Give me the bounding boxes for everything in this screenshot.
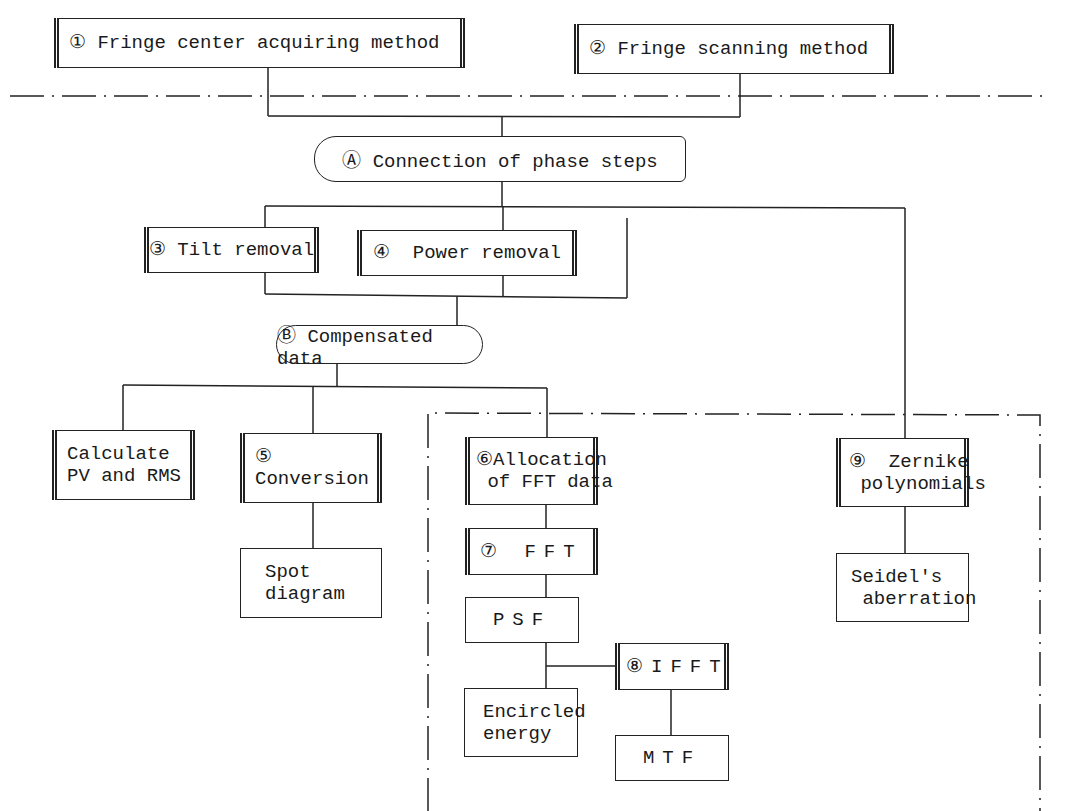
flowchart-canvas: ① Fringe center acquiring method ② Fring… <box>0 0 1075 811</box>
node-ifft[interactable]: ⑧IFFT <box>615 643 729 690</box>
node-label-line2: diagram <box>265 583 345 605</box>
node-label-line2: aberration <box>851 588 976 610</box>
node-psf[interactable]: PSF <box>465 597 579 643</box>
node-connection-of-phase-steps[interactable]: Ⓐ Connection of phase steps <box>314 136 686 182</box>
node-label-line2: Conversion <box>255 468 369 490</box>
node-label: Ⓑ Compensated data <box>277 320 482 370</box>
node-fft[interactable]: ⑦ FFT <box>465 528 598 575</box>
node-label-line1: ⑥Allocation <box>476 449 607 471</box>
node-label: ⑧IFFT <box>626 656 729 678</box>
node-label-line1: ⑤ <box>255 446 272 468</box>
node-label-line2: of FFT data <box>476 471 613 493</box>
node-label-line1: Encircled <box>483 701 586 723</box>
node-label-line1: ⑨ Zernike <box>849 451 969 473</box>
node-seidel-aberration[interactable]: Seidel's aberration <box>836 553 969 622</box>
node-conversion[interactable]: ⑤ Conversion <box>240 433 382 503</box>
node-label: ② Fringe scanning method <box>589 38 868 60</box>
node-label: ⑦ FFT <box>480 541 583 563</box>
node-label-line1: Calculate <box>67 443 170 465</box>
node-mtf[interactable]: MTF <box>615 735 729 781</box>
node-label-line2: polynomials <box>849 473 986 495</box>
node-fringe-scanning[interactable]: ② Fringe scanning method <box>574 24 894 74</box>
node-power-removal[interactable]: ④ Power removal <box>357 230 577 276</box>
node-label: PSF <box>493 609 551 631</box>
node-label-line1: Seidel's <box>851 566 942 588</box>
node-zernike-polynomials[interactable]: ⑨ Zernike polynomials <box>836 438 969 507</box>
node-label-line1: Spot <box>265 561 311 583</box>
node-label: ④ Power removal <box>373 242 561 264</box>
node-label-line2: energy <box>483 723 551 745</box>
node-label: MTF <box>643 747 701 769</box>
node-label: ③ Tilt removal <box>149 239 314 261</box>
node-label: ① Fringe center acquiring method <box>69 32 439 54</box>
node-calculate-pv-rms[interactable]: Calculate PV and RMS <box>52 430 195 500</box>
node-fringe-center-acquiring[interactable]: ① Fringe center acquiring method <box>54 18 465 68</box>
node-spot-diagram[interactable]: Spot diagram <box>240 548 382 618</box>
node-encircled-energy[interactable]: Encircled energy <box>464 688 578 757</box>
node-compensated-data[interactable]: Ⓑ Compensated data <box>276 325 483 364</box>
node-allocation-fft-data[interactable]: ⑥Allocation of FFT data <box>465 437 598 505</box>
node-label: Ⓐ Connection of phase steps <box>342 145 657 173</box>
node-tilt-removal[interactable]: ③ Tilt removal <box>144 227 319 273</box>
node-label-line2: PV and RMS <box>67 465 181 487</box>
